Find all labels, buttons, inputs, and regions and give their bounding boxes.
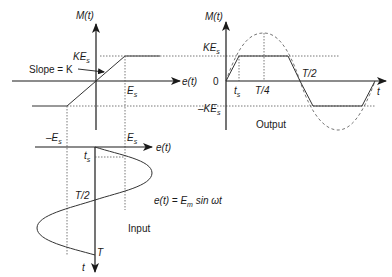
zero-label: 0 [213, 76, 219, 87]
output-ts-label: ts [234, 85, 241, 98]
input-es-label: Es [127, 132, 138, 145]
output-plot: M(t) KEs 0 –KEs ts T/4 T/2 t Output [197, 11, 386, 130]
half-period-label: T/2 [302, 68, 317, 79]
input-ts-label: ts [84, 150, 91, 163]
input-t-axis-label: t [82, 262, 86, 273]
input-e-axis-label: e(t) [156, 142, 171, 153]
output-t-axis-label: t [377, 86, 381, 97]
input-plot: –Es Es e(t) ts T/2 T t e(t) = Em sin ωt … [35, 132, 223, 273]
output-ke-label: KEs [203, 42, 220, 55]
saturation-diagram: M(t) KEs Slope = K Es e(t) M(t) KEs 0 –K… [0, 0, 392, 277]
input-period-label: T [97, 247, 104, 258]
transfer-y-axis-label: M(t) [76, 10, 94, 21]
output-neg-ke-label: –KEs [197, 103, 221, 116]
transfer-characteristic-plot: M(t) KEs Slope = K Es e(t) [12, 10, 375, 255]
input-half-period-label: T/2 [75, 190, 90, 201]
es-label: Es [127, 85, 138, 98]
output-y-axis-label: M(t) [205, 11, 223, 22]
slope-label: Slope = K [29, 64, 73, 75]
input-neg-es-label: –Es [45, 132, 62, 145]
output-caption: Output [256, 119, 286, 130]
slope-pointer-arrow [78, 69, 104, 72]
ke-label: KEs [73, 51, 90, 64]
input-caption: Input [128, 223, 150, 234]
input-equation: e(t) = Em sin ωt [154, 195, 223, 208]
quarter-period-label: T/4 [255, 85, 270, 96]
transfer-x-axis-label: e(t) [182, 76, 197, 87]
